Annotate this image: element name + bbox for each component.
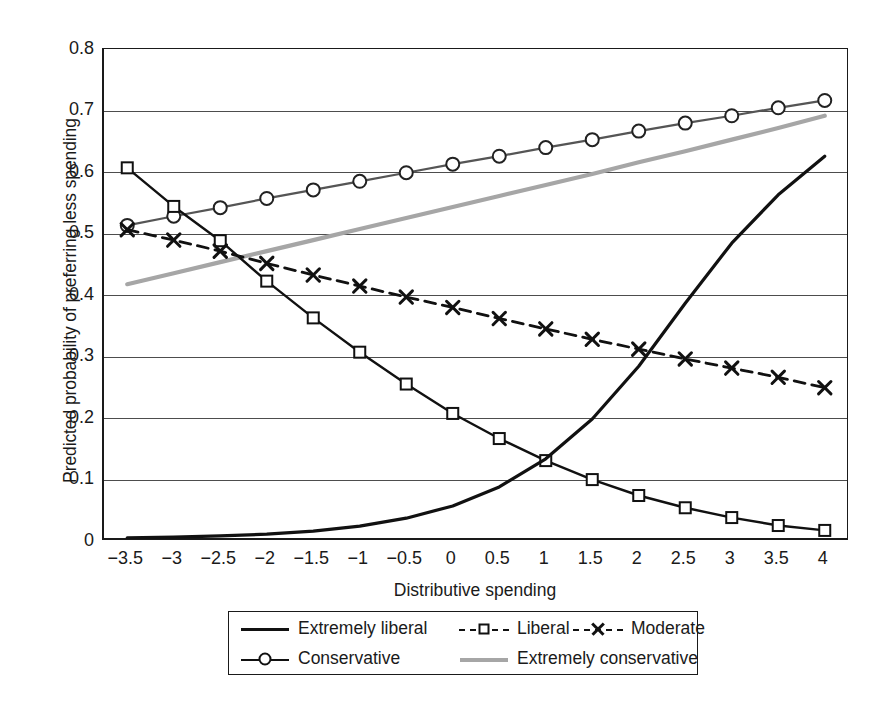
x-axis-title: Distributive spending xyxy=(102,580,848,601)
y-tick-label: 0.8 xyxy=(42,39,94,57)
y-tick-label: 0.4 xyxy=(42,285,94,303)
x-axis-tick-labels: −3.5−3−2.5−2−1.5−1−0.500.511.522.533.54 xyxy=(0,549,882,579)
series-layer xyxy=(104,49,848,539)
series-extremely-liberal xyxy=(127,156,825,538)
y-tick-label: 0.1 xyxy=(42,469,94,487)
x-tick-label: −2.5 xyxy=(200,549,236,567)
legend-item-extremely-liberal[interactable]: Extremely liberal xyxy=(239,613,427,645)
x-tick-label: 1.5 xyxy=(578,549,603,567)
x-tick-label: 1 xyxy=(539,549,549,567)
x-tick-label: 0 xyxy=(446,549,456,567)
legend-label: Conservative xyxy=(298,650,400,668)
legend-item-conservative[interactable]: Conservative xyxy=(239,643,400,675)
x-tick-label: −3 xyxy=(161,549,182,567)
plot-area xyxy=(102,48,848,540)
y-tick-label: 0.5 xyxy=(42,223,94,241)
series-liberal xyxy=(122,162,831,536)
square-marker-icon xyxy=(479,624,490,635)
legend-item-moderate[interactable]: Moderate xyxy=(572,613,705,645)
x-tick-label: −1.5 xyxy=(293,549,329,567)
x-tick-label: −0.5 xyxy=(386,549,422,567)
legend-label: Liberal xyxy=(517,620,570,638)
legend-label: Extremely liberal xyxy=(298,620,427,638)
legend-row: Extremely liberal Liberal Moderate xyxy=(229,613,697,645)
series-moderate xyxy=(121,223,831,393)
x-tick-label: 2.5 xyxy=(671,549,696,567)
x-tick-label: 4 xyxy=(818,549,828,567)
y-tick-label: 0.7 xyxy=(42,100,94,118)
legend-swatch-dashed-square-icon xyxy=(458,619,510,639)
legend-row: Conservative Extremely conservative xyxy=(229,643,697,675)
legend-swatch-solid-line-icon xyxy=(239,619,291,639)
x-tick-label: −3.5 xyxy=(107,549,143,567)
legend-swatch-line-circle-icon xyxy=(239,649,291,669)
legend-swatch-dashed-x-icon xyxy=(572,619,624,639)
chart-legend: Extremely liberal Liberal Moderate Co xyxy=(228,611,698,675)
series-conservative xyxy=(121,94,832,232)
legend-item-liberal[interactable]: Liberal xyxy=(458,613,570,645)
y-tick-label: 0.2 xyxy=(42,408,94,426)
chart-figure: Predicted probability of preferring less… xyxy=(0,0,882,712)
x-tick-label: −2 xyxy=(254,549,275,567)
y-axis-tick-labels: 0.8 0.7 0.6 0.5 0.4 0.3 0.2 0.1 0 xyxy=(38,0,94,712)
legend-item-extremely-conservative[interactable]: Extremely conservative xyxy=(458,643,698,675)
x-tick-label: −1 xyxy=(347,549,368,567)
x-tick-label: 3 xyxy=(725,549,735,567)
legend-label: Moderate xyxy=(631,620,705,638)
circle-marker-icon xyxy=(259,653,272,666)
x-tick-label: 2 xyxy=(632,549,642,567)
y-tick-label: 0.6 xyxy=(42,162,94,180)
y-tick-label: 0 xyxy=(42,531,94,549)
y-tick-label: 0.3 xyxy=(42,346,94,364)
x-tick-label: 3.5 xyxy=(764,549,789,567)
legend-swatch-gray-line-icon xyxy=(458,649,510,669)
legend-label: Extremely conservative xyxy=(517,650,698,668)
x-tick-label: 0.5 xyxy=(485,549,510,567)
